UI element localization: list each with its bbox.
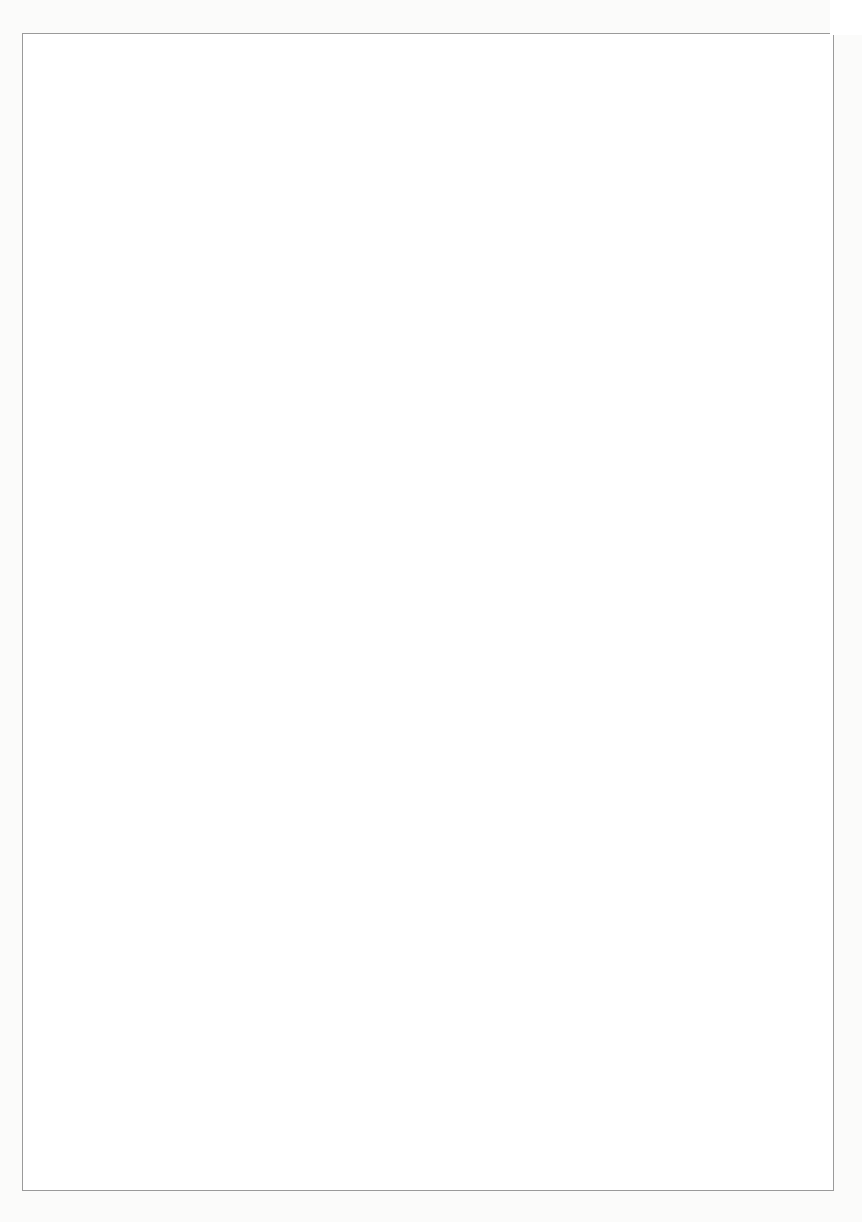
rotated-slide-wrapper: Electronic Services - All Locations RAS … xyxy=(830,0,862,35)
presentation-slide: Electronic Services - All Locations RAS … xyxy=(830,0,862,35)
page-border-frame xyxy=(22,33,834,1191)
